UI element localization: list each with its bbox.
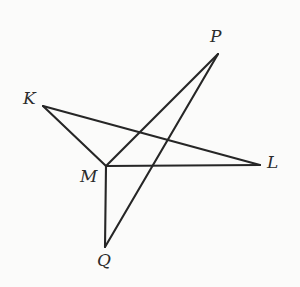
segment-ml — [106, 165, 260, 166]
vertex-label-k: K — [23, 90, 36, 107]
vertex-label-m: M — [80, 168, 98, 185]
figure-canvas — [0, 0, 300, 287]
vertex-label-q: Q — [97, 252, 111, 269]
vertex-label-p: P — [210, 28, 222, 45]
geometry-figure: K P L M Q — [0, 0, 300, 287]
segment-mq — [105, 166, 106, 247]
figure-background — [0, 0, 300, 287]
vertex-label-l: L — [267, 154, 279, 171]
